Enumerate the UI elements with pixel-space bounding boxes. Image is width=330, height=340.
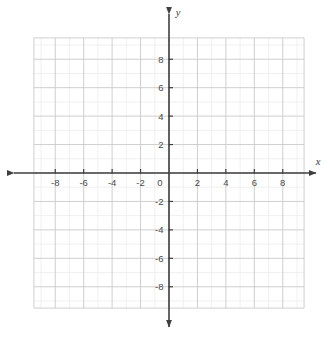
y-tick-label: -6 <box>155 253 163 264</box>
y-tick-label: 4 <box>158 111 163 122</box>
x-tick-label: 6 <box>252 177 257 188</box>
x-tick-label: 0 <box>157 177 162 188</box>
coordinate-plane-figure: -8-6-4-2024688642-2-4-6-8 x y <box>0 0 330 340</box>
y-tick-label: 2 <box>158 139 163 150</box>
y-tick-label: -2 <box>155 196 163 207</box>
x-tick-label: -2 <box>136 177 144 188</box>
x-tick-label: -4 <box>108 177 116 188</box>
x-tick-label: -8 <box>51 177 59 188</box>
x-tick-label: 4 <box>223 177 228 188</box>
x-tick-label: 2 <box>195 177 200 188</box>
chart-background <box>0 0 330 340</box>
y-tick-label: -8 <box>155 281 163 292</box>
y-tick-label: 6 <box>158 82 163 93</box>
x-tick-label: 8 <box>280 177 285 188</box>
x-tick-label: -6 <box>79 177 87 188</box>
y-tick-label: 8 <box>158 54 163 65</box>
y-tick-label: -4 <box>155 224 163 235</box>
cartesian-grid-svg: -8-6-4-2024688642-2-4-6-8 x y <box>0 0 330 340</box>
y-axis-label: y <box>175 7 181 18</box>
x-axis-label: x <box>315 156 321 167</box>
